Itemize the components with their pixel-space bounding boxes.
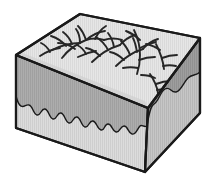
soil-block-diagram <box>0 0 214 188</box>
root-branch <box>123 67 138 68</box>
soil-block-figure: Soil Profile Block Diagram Grayscale lin… <box>0 0 214 188</box>
root-branch <box>163 65 176 66</box>
